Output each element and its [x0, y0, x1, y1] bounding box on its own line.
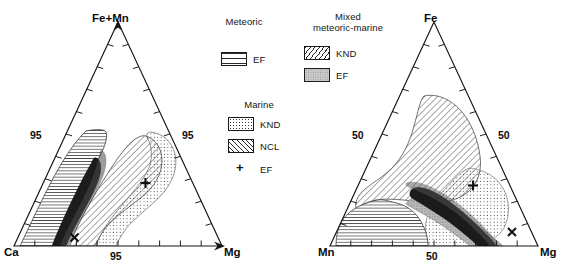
right-field-group [336, 95, 509, 246]
right-marker-x [508, 228, 516, 236]
figure-root: Fe+Mn Ca Mg 95 95 95 Fe Mn Mg 50 50 50 M… [0, 0, 578, 278]
left-field-group [20, 130, 176, 246]
ternary-plots-svg [0, 0, 578, 278]
left-apex-arrow-icon [114, 20, 123, 31]
right-ternary-plot [330, 22, 538, 246]
left-ternary-plot [14, 20, 225, 251]
